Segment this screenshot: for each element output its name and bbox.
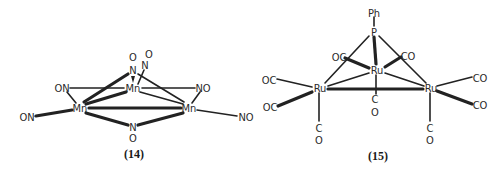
atom-mn-top: Mn [126,82,141,95]
atom-mn-left: Mn [73,102,88,115]
atom-oc-top-left: OC [332,51,347,64]
atom-co-top-right: CO [401,50,416,63]
atom-p: P [371,26,377,39]
atom-o-bridge: O [129,132,137,145]
chemical-structures-figure: O N O N ON Mn NO ON Mn Mn NO N O (14) [0,0,499,172]
atom-n-top1: N [129,64,136,77]
structure-15: Ph P OC CO Ru OC Ru Ru CO OC CO C O C O … [262,7,488,163]
atom-co-right-lower: CO [473,99,488,112]
atom-o-right: O [426,134,434,147]
atom-oc-left-lower: OC [263,101,278,114]
atom-n-top2: N [141,59,148,72]
structure-14: O N O N ON Mn NO ON Mn Mn NO N O (14) [19,48,253,161]
structure-14-bonds [36,70,237,125]
atom-c-center: C [372,93,379,106]
atom-o-top1: O [129,51,137,64]
structure-14-label: (14) [124,147,144,161]
atom-no-right-lower: NO [238,111,253,124]
atom-no-right-upper: NO [195,82,210,95]
atom-mn-right: Mn [182,102,197,115]
atom-co-right-upper: CO [473,72,488,85]
atom-on-left-upper: ON [54,82,69,95]
atom-ru-left: Ru [314,82,327,95]
structure-15-label: (15) [368,149,388,163]
atom-ph: Ph [368,7,380,20]
atom-on-left-lower: ON [19,111,34,124]
atom-o-center: O [371,106,379,119]
atom-oc-left-upper: OC [262,74,277,87]
atom-ru-right: Ru [425,82,438,95]
atom-ru-center: Ru [371,64,384,77]
atom-o-left: O [315,134,323,147]
